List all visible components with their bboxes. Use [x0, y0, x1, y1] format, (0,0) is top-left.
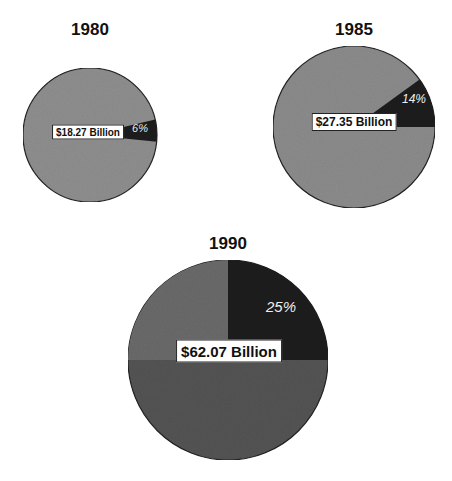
percent-label-1990: 25%	[266, 298, 296, 315]
percent-label-1985: 14%	[402, 92, 426, 106]
chart-title-1985: 1985	[335, 20, 373, 40]
chart-title-1990: 1990	[209, 234, 247, 254]
total-label-1985: $27.35 Billion	[312, 113, 397, 131]
total-label-1990: $62.07 Billion	[176, 340, 282, 363]
chart-title-1980: 1980	[71, 20, 109, 40]
percent-label-1980: 6%	[132, 122, 148, 134]
total-label-1980: $18.27 Billion	[52, 125, 124, 140]
